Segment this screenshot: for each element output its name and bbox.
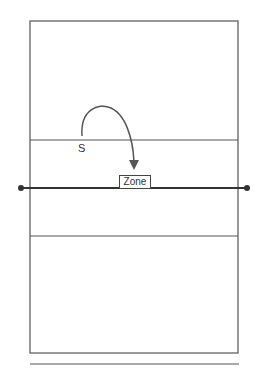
zone-label: Zone [119,175,151,189]
set-trajectory-arrow [82,106,134,162]
net-post-left-icon [18,185,24,191]
setter-label: S [78,142,85,154]
arrowhead-icon [129,160,139,170]
net-post-right-icon [244,185,250,191]
